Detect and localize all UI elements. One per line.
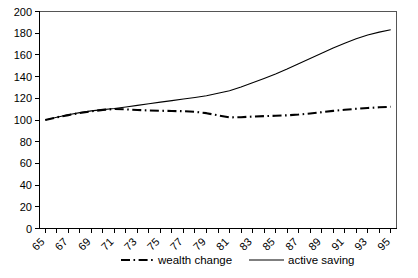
legend-label-active-saving: active saving	[288, 254, 354, 266]
y-axis-tick-label: 60	[20, 157, 32, 169]
y-axis-tick-label: 20	[20, 201, 32, 213]
chart-container: 020406080100120140160180200 656769717375…	[0, 0, 418, 278]
y-axis-tick-label: 120	[14, 92, 32, 104]
y-axis-tick-label: 160	[14, 49, 32, 61]
y-axis-tick-label: 100	[14, 114, 32, 126]
y-axis-tick-label: 200	[14, 6, 32, 18]
line-chart: 020406080100120140160180200 656769717375…	[0, 0, 418, 278]
y-axis-tick-label: 140	[14, 71, 32, 83]
y-axis-tick-label: 0	[26, 223, 32, 235]
y-axis-tick-label: 80	[20, 136, 32, 148]
legend-label-wealth-change: wealth change	[157, 254, 232, 266]
y-axis-tick-label: 40	[20, 179, 32, 191]
chart-background	[0, 0, 418, 278]
y-axis-tick-label: 180	[14, 27, 32, 39]
